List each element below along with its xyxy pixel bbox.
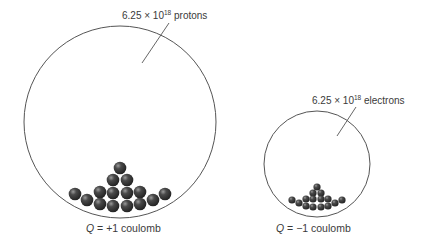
- proton-group: 6.25 × 1018 protons Q = +1 coulomb: [24, 9, 216, 234]
- electron-charge-caption: Q = −1 coulomb: [276, 222, 351, 234]
- proton-charge-caption: Q = +1 coulomb: [86, 222, 161, 234]
- electron-group: 6.25 × 1018 electrons Q = −1 coulomb: [264, 94, 405, 234]
- charge-diagram: 6.25 × 1018 protons Q = +1 coulomb 6.25 …: [0, 0, 436, 243]
- electron-count-label: 6.25 × 1018 electrons: [312, 94, 405, 106]
- proton-count-label: 6.25 × 1018 protons: [122, 9, 207, 21]
- proton-leader-line: [142, 23, 169, 63]
- electron-container-circle: [264, 111, 370, 217]
- proton-container-circle: [24, 26, 216, 218]
- proton-particles: [69, 162, 172, 213]
- electron-particles: [288, 183, 345, 210]
- electron-leader-line: [337, 107, 356, 136]
